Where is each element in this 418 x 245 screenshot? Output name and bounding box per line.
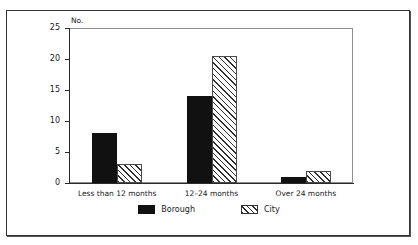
y-axis-tick-mark [65, 121, 69, 122]
y-axis-tick-mark [65, 90, 69, 91]
bar-city-3[interactable] [306, 171, 331, 183]
caption-strip [0, 0, 418, 9]
chart-legend: BoroughCity [7, 205, 411, 214]
y-axis-tick-label: 15 [50, 85, 60, 94]
bar-group [187, 28, 237, 183]
bar-group [281, 28, 331, 183]
y-axis-tick-mark [65, 183, 69, 184]
chart-outer-frame: No. 0510152025 Less than 12 months12–24 … [6, 10, 410, 236]
legend-label-city: City [264, 205, 280, 214]
y-axis-tick-label: 5 [55, 147, 60, 156]
x-axis-category-label: Less than 12 months [70, 189, 164, 198]
x-axis-line [69, 183, 354, 184]
bar-city-1[interactable] [117, 164, 142, 183]
y-axis-tick-label: 25 [50, 23, 60, 32]
y-axis-tick-label: 10 [50, 116, 60, 125]
bars-layer [70, 28, 353, 183]
bar-borough-2[interactable] [187, 96, 212, 183]
y-axis-tick-mark [65, 59, 69, 60]
legend-item-borough[interactable]: Borough [138, 205, 195, 214]
legend-swatch-city [241, 205, 258, 214]
x-axis-category-label: Over 24 months [259, 189, 353, 198]
x-axis-category-label: 12–24 months [164, 189, 258, 198]
y-axis-tick-mark [65, 28, 69, 29]
bar-city-2[interactable] [212, 56, 237, 183]
bar-borough-1[interactable] [92, 133, 117, 183]
y-axis-tick-mark [65, 152, 69, 153]
legend-item-city[interactable]: City [241, 205, 280, 214]
y-axis-tick-label: 0 [55, 178, 60, 187]
bar-group [92, 28, 142, 183]
legend-swatch-borough [138, 205, 155, 214]
chart-plot-wrapper: No. 0510152025 Less than 12 months12–24 … [7, 11, 411, 237]
legend-label-borough: Borough [161, 205, 195, 214]
bar-borough-3[interactable] [281, 177, 306, 183]
y-axis-tick-label: 20 [50, 54, 60, 63]
y-axis-title: No. [71, 16, 83, 25]
